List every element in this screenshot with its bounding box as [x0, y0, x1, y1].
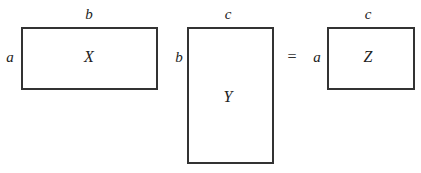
equals-sign: =	[287, 49, 296, 65]
matrix-z-row-label: a	[313, 50, 321, 65]
matrix-z-col-label: c	[365, 7, 372, 22]
matrix-y-name: Y	[224, 89, 233, 105]
matrix-z-name: Z	[364, 49, 373, 65]
matrix-x-col-label: b	[85, 7, 93, 22]
matrix-x-row-label: a	[6, 50, 14, 65]
matrix-y-col-label: c	[225, 7, 232, 22]
matrix-x-name: X	[84, 49, 94, 65]
matrix-y-row-label: b	[175, 50, 183, 65]
